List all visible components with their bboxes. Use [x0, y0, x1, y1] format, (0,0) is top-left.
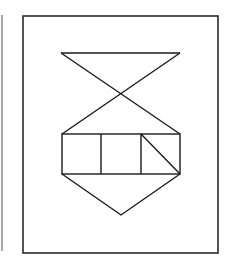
divided-rectangle [62, 134, 180, 174]
bottom-triangle [62, 174, 180, 215]
geometric-diagram [0, 0, 225, 273]
cell-diagonal [141, 134, 180, 174]
